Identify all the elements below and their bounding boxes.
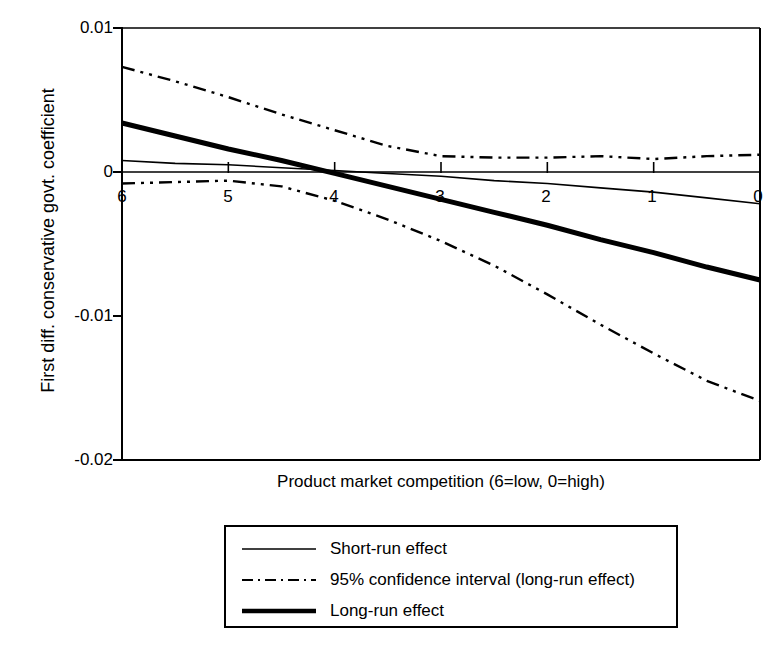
data-series-layer xyxy=(122,67,760,401)
legend-label-long-run: Long-run effect xyxy=(330,601,444,621)
legend-swatch-confidence-interval xyxy=(240,573,318,587)
legend-entry-confidence-interval: 95% confidence interval (long-run effect… xyxy=(226,564,676,596)
legend-entry-short-run: Short-run effect xyxy=(226,533,676,565)
series-line-2 xyxy=(122,181,760,401)
legend-label-short-run: Short-run effect xyxy=(330,539,447,559)
legend-swatch-long-run xyxy=(240,604,318,618)
legend-entry-long-run: Long-run effect xyxy=(226,595,676,627)
legend: Short-run effect 95% confidence interval… xyxy=(224,525,678,628)
chart-figure: First diff. conservative govt. coefficie… xyxy=(0,0,775,650)
axis-frame xyxy=(122,28,760,460)
legend-label-confidence-interval: 95% confidence interval (long-run effect… xyxy=(330,570,635,590)
series-line-3 xyxy=(122,123,760,280)
legend-swatch-short-run xyxy=(240,542,318,556)
